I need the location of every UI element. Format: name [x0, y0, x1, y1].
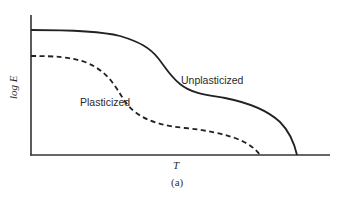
- unplasticized-label: Unplasticized: [181, 74, 244, 86]
- modulus-temperature-chart: Unplasticized Plasticized log E T (a): [0, 0, 343, 215]
- unplasticized-curve: [31, 30, 297, 155]
- plasticized-label: Plasticized: [80, 96, 130, 108]
- y-axis-label: log E: [7, 75, 19, 99]
- plasticized-curve: [31, 56, 260, 155]
- x-axis-label: T: [173, 159, 180, 171]
- figure-caption: (a): [171, 176, 184, 189]
